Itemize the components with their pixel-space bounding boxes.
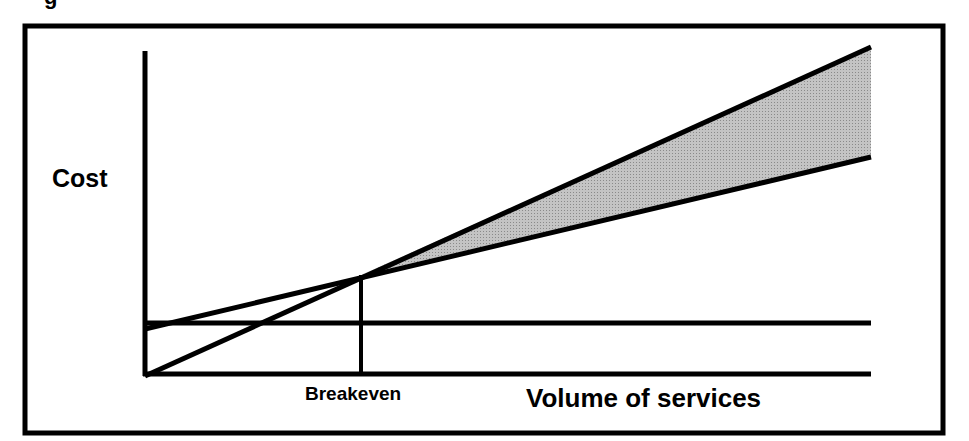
breakeven-label: Breakeven xyxy=(305,383,401,405)
total-cost-line xyxy=(145,157,871,329)
y-axis-label: Cost xyxy=(52,164,108,193)
breakeven-diagram xyxy=(0,0,969,441)
x-axis-label: Volume of services xyxy=(526,383,761,414)
revenue-line xyxy=(145,47,871,376)
figure-title-fragment: g xyxy=(44,0,57,10)
